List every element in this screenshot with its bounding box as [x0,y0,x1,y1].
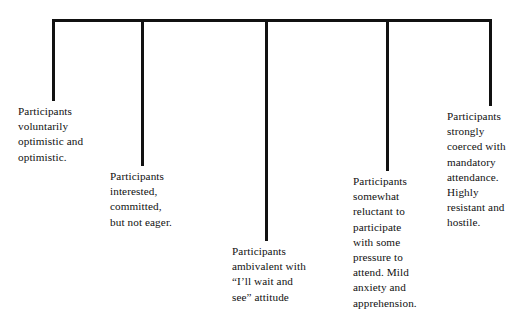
continuum-label-somewhat-reluctant: Participants somewhat reluctant to parti… [353,174,445,311]
diagram-canvas: Participants voluntarily optimistic and … [0,0,531,325]
continuum-label-voluntarily-optimistic: Participants voluntarily optimistic and … [18,104,133,165]
continuum-label-ambivalent-wait-and-see: Participants ambivalent with “I’ll wait … [232,244,360,305]
continuum-label-strongly-coerced: Participants strongly coerced with manda… [447,109,531,231]
continuum-tick-3 [265,19,268,241]
continuum-label-interested-committed: Participants interested, committed, but … [110,169,230,230]
continuum-axis-bar [52,19,492,22]
continuum-tick-4 [386,19,389,171]
continuum-tick-5 [489,19,492,106]
continuum-tick-1 [52,19,55,101]
continuum-tick-2 [141,19,144,166]
